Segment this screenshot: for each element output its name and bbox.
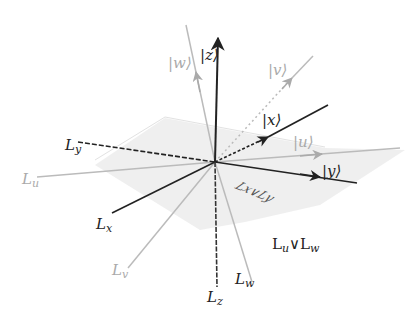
label-ket-u: |u⟩ (293, 135, 314, 150)
label-ket-v: |v⟩ (268, 63, 287, 78)
label-ket-x: |x⟩ (262, 113, 281, 128)
label-line-lu: Lu (22, 172, 39, 189)
vector-w-arrow (196, 72, 200, 92)
label-line-lz: Lz (207, 290, 223, 307)
label-line-lw: Lw (235, 272, 254, 289)
vector-v-arrow (282, 78, 292, 89)
diagram-canvas: |z⟩ |w⟩ |v⟩ |x⟩ |u⟩ |y⟩ Ly Lu Lx Lv Lz L… (0, 0, 420, 324)
label-line-ly: Ly (65, 138, 81, 155)
label-line-lx: Lx (96, 217, 112, 234)
vector-v-solid (292, 56, 313, 78)
label-plane-lu-lw: Lu∨Lw (272, 235, 319, 255)
label-ket-w: |w⟩ (168, 56, 192, 71)
label-ket-z: |z⟩ (200, 48, 219, 63)
label-line-lv: Lv (112, 263, 128, 280)
label-ket-y: |y⟩ (322, 164, 341, 179)
plane-lx-ly (95, 118, 405, 230)
